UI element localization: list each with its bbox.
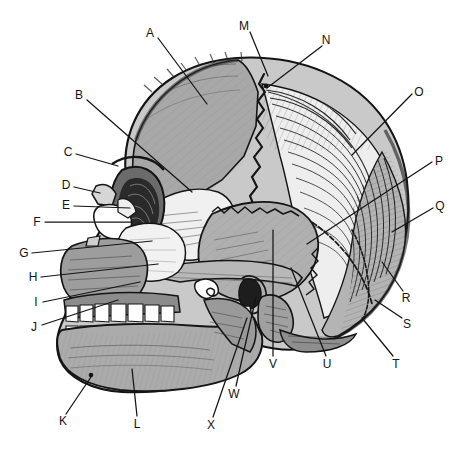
label-W: W [228, 388, 239, 400]
label-H: H [29, 271, 38, 283]
leader-S [375, 300, 402, 318]
label-K: K [59, 415, 67, 427]
label-D: D [62, 179, 71, 191]
label-E: E [62, 199, 70, 211]
label-O: O [414, 86, 423, 98]
leader-K [66, 377, 91, 414]
auditory-meatus [239, 279, 261, 309]
label-J: J [31, 321, 37, 333]
label-P: P [435, 155, 443, 167]
label-Q: Q [435, 200, 444, 212]
label-L: L [134, 418, 141, 430]
label-A: A [146, 27, 154, 39]
label-F: F [33, 216, 40, 228]
label-I: I [34, 296, 37, 308]
leader-T [362, 318, 393, 356]
label-R: R [402, 292, 411, 304]
label-V: V [269, 358, 277, 370]
leader-C [76, 154, 118, 166]
label-X: X [207, 419, 215, 431]
label-S: S [403, 318, 411, 330]
label-C: C [64, 146, 73, 158]
upper-teeth [66, 304, 174, 322]
label-T: T [392, 358, 399, 370]
label-N: N [322, 34, 331, 46]
label-U: U [323, 358, 332, 370]
label-G: G [19, 247, 28, 259]
anterior-nasal-spine [86, 236, 100, 246]
label-M: M [239, 20, 249, 32]
label-B: B [75, 89, 83, 101]
skull-anatomy-figure: A B C D E F G H I J K L M N O P Q R S T … [0, 0, 464, 468]
